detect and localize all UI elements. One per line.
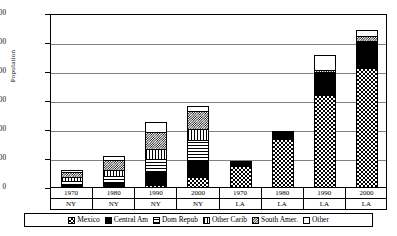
- bar-slot: [51, 15, 93, 187]
- y-axis-tick-label: 3,000,000: [0, 10, 6, 17]
- bar-segment-mexico[interactable]: [230, 166, 252, 188]
- y-axis-tick-label: 1,000,000: [0, 126, 6, 133]
- x-axis-cell: 1990LA: [303, 188, 345, 210]
- legend-label: Other Carib: [212, 216, 247, 224]
- bar-slot: [177, 15, 219, 187]
- stacked-bar[interactable]: [103, 156, 125, 187]
- bar-slot: [135, 15, 177, 187]
- legend-swatch-icon: [153, 217, 160, 224]
- x-axis-cell: 1980LA: [261, 188, 303, 210]
- legend-item-other-carib[interactable]: Other Carib: [203, 216, 247, 224]
- legend-swatch-icon: [303, 217, 310, 224]
- bar-segment-central-am[interactable]: [356, 43, 378, 69]
- bar-segment-mexico[interactable]: [187, 177, 209, 188]
- x-axis-year-label: 1990: [135, 189, 176, 197]
- x-axis-cell: 2000NY: [176, 188, 218, 210]
- x-axis-year-label: 1980: [262, 189, 303, 197]
- stacked-bar[interactable]: [272, 131, 294, 187]
- bar-series-group: [51, 15, 386, 187]
- legend-label: Other: [312, 216, 329, 224]
- x-axis-labels: 1970NY1980NY1990NY2000NY1970LA1980LA1990…: [50, 188, 387, 210]
- legend-item-central-am[interactable]: Central Am: [105, 216, 148, 224]
- stacked-bar[interactable]: [356, 30, 378, 187]
- bar-slot: [346, 15, 388, 187]
- x-axis-year-label: 1970: [220, 189, 261, 197]
- x-axis-year-label: 1990: [304, 189, 345, 197]
- bar-segment-central-am[interactable]: [187, 161, 209, 178]
- bar-segment-mexico[interactable]: [272, 139, 294, 188]
- bar-segment-central-am[interactable]: [314, 74, 336, 95]
- bar-slot: [93, 15, 135, 187]
- bar-segment-south-amer[interactable]: [187, 111, 209, 131]
- y-axis-tick-label: 1,500,000: [0, 97, 6, 104]
- legend-item-mexico[interactable]: Mexico: [68, 216, 100, 224]
- x-axis-city-label: NY: [135, 200, 176, 208]
- legend-swatch-icon: [105, 217, 112, 224]
- legend-label: Central Am: [114, 216, 148, 224]
- x-axis-city-label: LA: [346, 200, 387, 208]
- x-axis-city-label: NY: [177, 200, 218, 208]
- x-axis-year-label: 2000: [346, 189, 387, 197]
- x-axis-year-label: 2000: [177, 189, 218, 197]
- legend-label: South Amer.: [261, 216, 298, 224]
- y-axis-tick-label: 2,000,000: [0, 68, 6, 75]
- x-axis-year-label: 1980: [93, 189, 134, 197]
- x-axis-city-label: NY: [50, 200, 92, 208]
- stacked-bar[interactable]: [314, 55, 336, 187]
- bar-segment-dom-repub[interactable]: [145, 159, 167, 174]
- x-axis-cell: 2000LA: [345, 188, 387, 210]
- bar-slot: [220, 15, 262, 187]
- bar-segment-dom-repub[interactable]: [187, 140, 209, 161]
- legend-swatch-icon: [252, 217, 259, 224]
- stacked-bar[interactable]: [230, 161, 252, 187]
- chart-legend: MexicoCentral AmDom RepubOther CaribSout…: [24, 213, 373, 227]
- x-axis-cell: 1990NY: [134, 188, 176, 210]
- y-axis-title: Population: [9, 11, 17, 121]
- bar-segment-mexico[interactable]: [314, 95, 336, 188]
- legend-label: Mexico: [77, 216, 100, 224]
- plot-area: [50, 14, 387, 188]
- legend-item-south-amer[interactable]: South Amer.: [252, 216, 298, 224]
- x-axis-cell: 1980NY: [92, 188, 134, 210]
- bar-segment-central-am[interactable]: [145, 172, 167, 185]
- legend-item-dom-repub[interactable]: Dom Repub: [153, 216, 198, 224]
- bar-segment-mexico[interactable]: [356, 68, 378, 188]
- x-axis-cell: 1970LA: [219, 188, 261, 210]
- bar-slot: [304, 15, 346, 187]
- stacked-bar[interactable]: [187, 106, 209, 187]
- legend-label: Dom Repub: [162, 216, 198, 224]
- chart-container: Population 3,000,0002,500,0002,000,0001,…: [0, 0, 397, 236]
- x-axis-year-label: 1970: [50, 189, 92, 197]
- y-axis-tick-label: 500,000: [0, 155, 6, 162]
- x-axis-cell: 1970NY: [50, 188, 92, 210]
- x-axis-city-label: LA: [220, 200, 261, 208]
- bar-segment-south-amer[interactable]: [145, 132, 167, 150]
- bar-slot: [262, 15, 304, 187]
- y-axis-tick-label: 0: [0, 184, 6, 191]
- bar-segment-other[interactable]: [314, 55, 336, 71]
- legend-swatch-icon: [68, 217, 75, 224]
- y-axis-tick-label: 2,500,000: [0, 39, 6, 46]
- legend-swatch-icon: [203, 217, 210, 224]
- stacked-bar[interactable]: [145, 122, 167, 187]
- x-axis-city-label: LA: [304, 200, 345, 208]
- x-axis-city-label: LA: [262, 200, 303, 208]
- stacked-bar[interactable]: [61, 170, 83, 187]
- x-axis-city-label: NY: [93, 200, 134, 208]
- legend-item-other[interactable]: Other: [303, 216, 329, 224]
